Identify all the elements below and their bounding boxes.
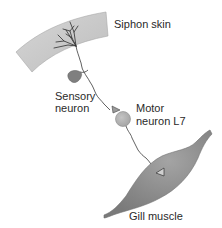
motor-neuron-label-line1: Motor xyxy=(136,102,164,114)
sensory-neuron xyxy=(68,70,88,83)
gill-muscle-label: Gill muscle xyxy=(129,210,183,222)
siphon-skin-label: Siphon skin xyxy=(114,18,171,30)
siphon-skin xyxy=(16,12,108,72)
diagram-canvas xyxy=(0,0,222,228)
reflex-circuit-diagram: Siphon skin Sensory neuron Motor neuron … xyxy=(0,0,222,228)
motor-neuron-label-line2: neuron L7 xyxy=(136,115,186,127)
sensory-neuron-label-line2: neuron xyxy=(55,102,89,114)
sensory-neuron-label-line1: Sensory xyxy=(55,90,95,102)
motor-neuron-l7 xyxy=(116,112,131,127)
sensory-motor-synapse xyxy=(112,106,120,113)
